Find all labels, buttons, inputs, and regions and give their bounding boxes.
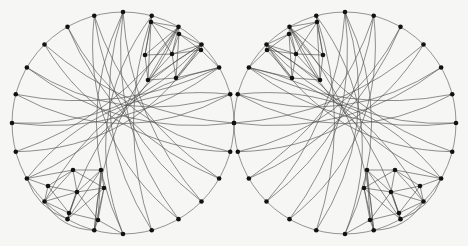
rim-vertex[interactable] (176, 25, 181, 30)
rim-vertex[interactable] (398, 217, 403, 222)
cluster-vertex[interactable] (46, 184, 51, 189)
rim-vertex[interactable] (25, 65, 30, 70)
cluster-vertex[interactable] (318, 78, 323, 83)
chord-edge (94, 16, 219, 179)
cluster-vertex[interactable] (96, 218, 101, 223)
cluster-edge (179, 34, 201, 50)
rim-vertex[interactable] (235, 92, 240, 97)
rim-vertex[interactable] (454, 121, 459, 126)
chord-edge (267, 45, 453, 152)
cluster-edge (292, 78, 320, 80)
rim-vertex[interactable] (217, 65, 222, 70)
rim-vertex[interactable] (121, 232, 126, 237)
rim-vertex[interactable] (13, 92, 18, 97)
rim-vertex[interactable] (398, 25, 403, 30)
cluster-edge (391, 170, 395, 192)
cluster-vertex[interactable] (146, 78, 151, 83)
cluster-vertex[interactable] (99, 168, 104, 173)
rim-vertex[interactable] (421, 199, 426, 204)
cluster-vertex[interactable] (365, 168, 370, 173)
cluster-vertex[interactable] (290, 76, 295, 81)
right-graph (232, 10, 459, 237)
rim-vertex[interactable] (121, 10, 126, 15)
rim-vertex[interactable] (13, 149, 18, 154)
cluster-vertex[interactable] (170, 52, 175, 57)
rim-vertex[interactable] (42, 199, 47, 204)
rim-vertex[interactable] (92, 13, 97, 18)
chord-edge (238, 45, 424, 152)
rim-vertex[interactable] (314, 13, 319, 18)
cluster-rim-edge (391, 192, 423, 201)
rim-vertex[interactable] (149, 13, 154, 18)
rim-vertex[interactable] (235, 149, 240, 154)
cluster-vertex[interactable] (149, 20, 154, 25)
chord-edge (290, 27, 453, 152)
cluster-rim-edge (249, 50, 267, 68)
cluster-vertex[interactable] (102, 186, 107, 191)
rim-vertex[interactable] (439, 176, 444, 181)
cluster-vertex[interactable] (287, 32, 292, 37)
cluster-vertex[interactable] (294, 52, 299, 57)
rim-vertex[interactable] (232, 121, 237, 126)
cluster-rim-edge (45, 192, 77, 201)
cluster-rim-edge (148, 45, 201, 80)
cluster-rim-edge (267, 34, 289, 45)
rim-vertex[interactable] (176, 217, 181, 222)
cluster-rim-edge (201, 50, 219, 68)
rim-vertex[interactable] (421, 42, 426, 47)
rim-vertex[interactable] (92, 228, 97, 233)
rim-vertex[interactable] (343, 10, 348, 15)
cluster-vertex[interactable] (265, 48, 270, 53)
cluster-edge (172, 54, 176, 78)
cluster-edge (267, 34, 289, 50)
chord-edge (16, 68, 219, 101)
rim-vertex[interactable] (287, 25, 292, 30)
rim-vertex[interactable] (199, 42, 204, 47)
cluster-vertex[interactable] (389, 190, 394, 195)
rim-vertex[interactable] (287, 217, 292, 222)
cluster-rim-edge (94, 188, 104, 230)
rim-vertex[interactable] (149, 228, 154, 233)
chord-edge (249, 16, 374, 179)
chord-edge (16, 45, 202, 152)
rim-vertex[interactable] (264, 42, 269, 47)
cluster-vertex[interactable] (75, 190, 80, 195)
cluster-vertex[interactable] (362, 186, 367, 191)
chord-edge (249, 68, 424, 202)
rim-vertex[interactable] (314, 228, 319, 233)
rim-vertex[interactable] (247, 176, 252, 181)
rim-vertex[interactable] (199, 199, 204, 204)
cluster-rim-edge (179, 34, 201, 45)
rim-vertex[interactable] (10, 121, 15, 126)
rim-vertex[interactable] (439, 65, 444, 70)
rim-vertex[interactable] (371, 228, 376, 233)
cluster-vertex[interactable] (177, 32, 182, 37)
rim-vertex[interactable] (65, 25, 70, 30)
cluster-vertex[interactable] (418, 184, 423, 189)
cluster-vertex[interactable] (397, 211, 402, 216)
cluster-vertex[interactable] (71, 168, 76, 173)
rim-vertex[interactable] (228, 149, 233, 154)
cluster-vertex[interactable] (368, 218, 373, 223)
rim-vertex[interactable] (247, 65, 252, 70)
rim-vertex[interactable] (450, 92, 455, 97)
cluster-vertex[interactable] (321, 53, 326, 58)
cluster-vertex[interactable] (315, 20, 320, 25)
rim-vertex[interactable] (343, 232, 348, 237)
left-graph (10, 10, 237, 237)
cluster-vertex[interactable] (67, 211, 72, 216)
chord-edge (290, 27, 442, 179)
rim-vertex[interactable] (217, 176, 222, 181)
rim-vertex[interactable] (450, 149, 455, 154)
rim-vertex[interactable] (228, 92, 233, 97)
cluster-vertex[interactable] (143, 53, 148, 58)
rim-vertex[interactable] (371, 13, 376, 18)
rim-vertex[interactable] (65, 217, 70, 222)
cluster-vertex[interactable] (174, 76, 179, 81)
cluster-vertex[interactable] (393, 168, 398, 173)
rim-vertex[interactable] (264, 199, 269, 204)
cluster-vertex[interactable] (199, 48, 204, 53)
rim-vertex[interactable] (25, 176, 30, 181)
rim-vertex[interactable] (42, 42, 47, 47)
chord-edge (27, 27, 179, 179)
